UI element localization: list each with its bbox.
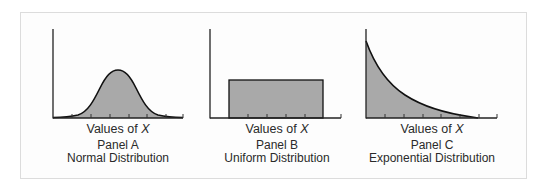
exponential-curve-area [366, 41, 478, 118]
panel-a-name: Panel A [38, 138, 198, 152]
panel-c-plot [366, 29, 497, 119]
normal-curve-area [53, 70, 183, 118]
panel-b-xlabel: Values of X [197, 122, 357, 136]
panel-a-xlabel: Values of X [38, 122, 198, 136]
panel-b-title: Uniform Distribution [197, 151, 357, 165]
panel-a-title: Normal Distribution [38, 151, 198, 165]
panel-b-plot [210, 29, 341, 119]
uniform-rect [229, 80, 323, 118]
panel-c-title: Exponential Distribution [352, 151, 512, 165]
panel-b-name: Panel B [197, 138, 357, 152]
panel-c-name: Panel C [352, 138, 512, 152]
panel-a-plot [53, 29, 183, 119]
panel-c-xlabel: Values of X [352, 122, 512, 136]
